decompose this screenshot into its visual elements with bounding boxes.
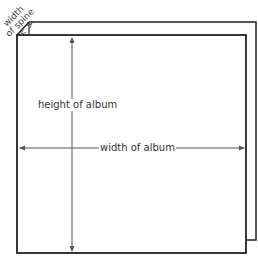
width-label: width of album <box>99 142 176 154</box>
album-dimensions-diagram: height of album width of album width of … <box>0 0 258 256</box>
diagram-graphics <box>0 0 258 256</box>
height-label: height of album <box>38 99 117 111</box>
